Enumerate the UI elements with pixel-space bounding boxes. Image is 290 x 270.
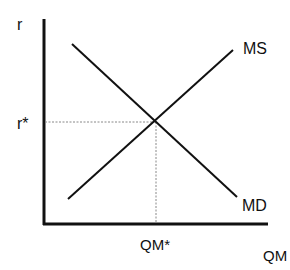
ms-label: MS [243,40,267,57]
x-axis-label: QM [263,247,287,264]
qm-star-label: QM* [140,236,170,253]
y-axis-label: r [17,16,23,33]
money-market-diagram: r r* MS MD QM* QM [0,0,290,270]
ms-curve [68,50,233,199]
md-label: MD [242,197,267,214]
r-star-label: r* [17,115,29,132]
